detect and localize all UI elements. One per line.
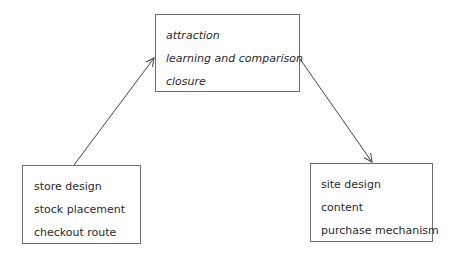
stage-attraction: attraction [166,24,299,47]
arrow-top-to-right [300,59,372,162]
stage-learning-comparison: learning and comparison [166,47,299,70]
stage-closure: closure [166,70,299,93]
arrow-left-to-top [74,58,154,165]
item-store-design: store design [34,175,140,198]
item-site-design: site design [321,173,432,196]
right-box-online-store: site design content purchase mechanism [310,163,433,242]
left-box-physical-store: store design stock placement checkout ro… [22,165,141,244]
top-box-stages: attraction learning and comparison closu… [155,14,300,92]
item-content: content [321,196,432,219]
item-purchase-mechanism: purchase mechanism [321,219,432,242]
item-checkout-route: checkout route [34,221,140,244]
item-stock-placement: stock placement [34,198,140,221]
